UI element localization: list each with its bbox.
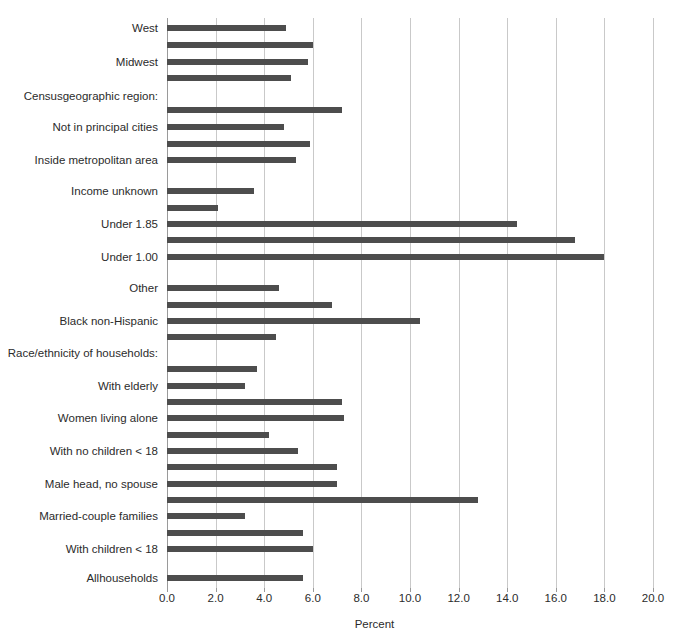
bar [167, 205, 218, 211]
x-axis-title: Percent [0, 618, 673, 630]
bar [167, 75, 291, 81]
gridline-18.0 [604, 18, 605, 588]
bar [167, 432, 269, 438]
y-axis-label: With no children < 18 [50, 445, 158, 457]
y-axis-label: Under 1.00 [101, 251, 158, 263]
bar [167, 383, 245, 389]
bar [167, 254, 604, 260]
bar [167, 285, 279, 291]
y-axis-label: Race/ethnicity of households: [8, 347, 158, 359]
y-axis-label: West [132, 22, 158, 34]
bar [167, 497, 478, 503]
y-axis-label: Black non-Hispanic [60, 315, 158, 327]
y-axis-label: Under 1.85 [101, 218, 158, 230]
bar [167, 448, 298, 454]
y-axis-label: Income unknown [71, 185, 158, 197]
bar [167, 237, 575, 243]
y-axis-label: Censusgeographic region: [24, 90, 158, 102]
bar [167, 42, 313, 48]
bar [167, 124, 284, 130]
bar [167, 157, 296, 163]
gridline-14.0 [507, 18, 508, 588]
bar [167, 302, 332, 308]
y-axis-label: With children < 18 [66, 543, 158, 555]
bar [167, 399, 342, 405]
x-axis-title-text: Percent [355, 618, 395, 630]
bar [167, 59, 308, 65]
y-axis-label: Married-couple families [39, 510, 158, 522]
gridline-16.0 [556, 18, 557, 588]
gridline-20.0 [653, 18, 654, 588]
y-axis-label: Not in principal cities [53, 121, 158, 133]
bar [167, 546, 313, 552]
bar [167, 575, 303, 581]
plot-area [167, 18, 653, 588]
y-axis-label: Women living alone [58, 412, 158, 424]
y-axis-label: Midwest [116, 56, 158, 68]
bar [167, 221, 517, 227]
bar [167, 415, 344, 421]
bar [167, 513, 245, 519]
y-axis-labels: WestMidwestCensusgeographic region:Not i… [0, 0, 158, 642]
x-tick-label: 20.0 [623, 592, 673, 605]
bar [167, 530, 303, 536]
bar [167, 464, 337, 470]
y-axis-label: Other [129, 282, 158, 294]
y-axis-label: With elderly [98, 380, 158, 392]
y-axis-label: Inside metropolitan area [35, 154, 158, 166]
bar [167, 25, 286, 31]
bar [167, 107, 342, 113]
bar [167, 141, 310, 147]
y-axis-label: Allhouseholds [86, 572, 158, 584]
bar [167, 318, 420, 324]
bar-chart: WestMidwestCensusgeographic region:Not i… [0, 0, 673, 642]
y-axis-label: Male head, no spouse [45, 478, 158, 490]
bar [167, 481, 337, 487]
bar [167, 334, 276, 340]
bar [167, 366, 257, 372]
bar [167, 188, 254, 194]
